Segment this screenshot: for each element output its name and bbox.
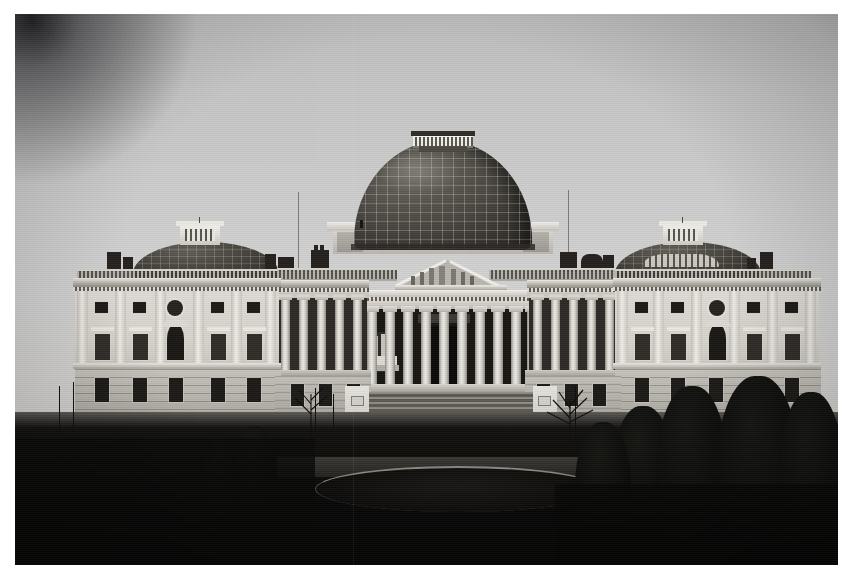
portico-cornice — [365, 290, 537, 297]
scan-seam — [353, 14, 354, 565]
portico-column-capital — [401, 306, 415, 312]
portico-column-capital — [365, 306, 379, 312]
attic-window — [95, 302, 108, 313]
link-column-capital — [531, 295, 544, 300]
basement-window — [133, 378, 147, 402]
photographic-print — [15, 14, 838, 565]
north-cupola-glazing — [185, 229, 215, 241]
window-pediment — [243, 327, 266, 331]
link-column — [551, 299, 560, 370]
dome-lantern-cap — [411, 131, 475, 136]
chimney-ne-1 — [265, 254, 276, 270]
south-cupola-cornice — [659, 221, 707, 226]
pediment-figure-center — [439, 266, 445, 285]
basement-window — [635, 378, 649, 402]
pediment-figure-2 — [429, 268, 434, 285]
dome-lantern-base — [419, 146, 467, 152]
piano-nobile-window — [785, 334, 800, 360]
south-dome-skylight — [643, 254, 719, 267]
bulfinch-dome — [354, 140, 532, 250]
piano-nobile-window — [133, 334, 148, 360]
basement-window — [211, 378, 225, 402]
piano-nobile-window — [95, 334, 110, 360]
piano-nobile-window — [635, 334, 650, 360]
chimney-nw-1 — [107, 252, 121, 269]
link-column-capital — [315, 295, 328, 300]
dome-highlight — [379, 151, 461, 195]
link-column-capital — [279, 295, 292, 300]
bare-sapling — [73, 382, 74, 440]
link-column — [533, 299, 542, 370]
window-pediment — [207, 327, 230, 331]
basement-window — [169, 378, 183, 402]
roof-figure-left — [360, 220, 363, 228]
photo-mount — [0, 0, 853, 587]
foreground-shadow-left — [15, 438, 315, 565]
basement-window — [95, 378, 109, 402]
chimney-pot-a — [314, 245, 318, 251]
link-column-capital — [585, 295, 598, 300]
link-column — [569, 299, 578, 370]
portico-column — [457, 310, 467, 386]
attic-window — [785, 302, 798, 313]
portico-column-capital — [509, 306, 523, 312]
north-wing-cornice — [73, 278, 281, 287]
attic-window — [671, 302, 684, 313]
south-cupola-finial — [682, 217, 683, 223]
portico-column — [475, 310, 485, 386]
pediment-figure-1 — [420, 272, 424, 285]
attic-window — [747, 302, 760, 313]
chimney-se-1 — [760, 252, 773, 270]
link-column-capital — [549, 295, 562, 300]
window-pediment — [129, 327, 152, 331]
piano-nobile-window — [211, 334, 226, 360]
portico-column-capital — [455, 306, 469, 312]
link-column — [587, 299, 596, 370]
portico-column-capital — [473, 306, 487, 312]
piano-nobile-window — [747, 334, 762, 360]
chimney-pot-b — [320, 245, 324, 251]
north-link-cornice — [277, 280, 369, 288]
pediment-figure-4 — [461, 272, 465, 285]
pediment-figure-3 — [451, 269, 456, 285]
portico-stylobate — [359, 384, 543, 392]
portico-column — [439, 310, 449, 386]
window-pediment — [91, 327, 114, 331]
bare-tree-right — [535, 374, 605, 454]
portico-column-capital — [419, 306, 433, 312]
link-column — [317, 299, 326, 370]
basement-window — [247, 378, 261, 402]
central-arched-window — [167, 324, 184, 360]
link-column — [335, 299, 344, 370]
south-link-cornice — [527, 280, 619, 288]
portico-column — [493, 310, 503, 386]
portico-column — [421, 310, 431, 386]
oculus-window — [709, 300, 725, 316]
window-pediment — [631, 327, 654, 331]
portico-column-capital — [491, 306, 505, 312]
central-arched-window — [709, 324, 726, 360]
north-cupola-cornice — [176, 221, 224, 226]
attic-window — [133, 302, 146, 313]
piano-nobile-window — [671, 334, 686, 360]
link-column — [299, 299, 308, 370]
north-cupola-finial — [199, 217, 200, 223]
portico-column — [403, 310, 413, 386]
link-column-capital — [333, 295, 346, 300]
south-wing-cornice — [613, 278, 821, 287]
portico-column — [511, 310, 521, 386]
bare-sapling — [59, 386, 60, 440]
portico-column — [385, 310, 395, 386]
piano-nobile-window — [247, 334, 262, 360]
attic-window — [247, 302, 260, 313]
link-column-capital — [567, 295, 580, 300]
attic-window — [635, 302, 648, 313]
chimney-center-left — [311, 250, 329, 270]
window-pediment — [781, 327, 804, 331]
attic-window — [211, 302, 224, 313]
link-column — [281, 299, 290, 370]
portico-column-capital — [383, 306, 397, 312]
dome-rim-shadow — [351, 244, 535, 250]
link-column-capital — [297, 295, 310, 300]
window-pediment — [743, 327, 766, 331]
